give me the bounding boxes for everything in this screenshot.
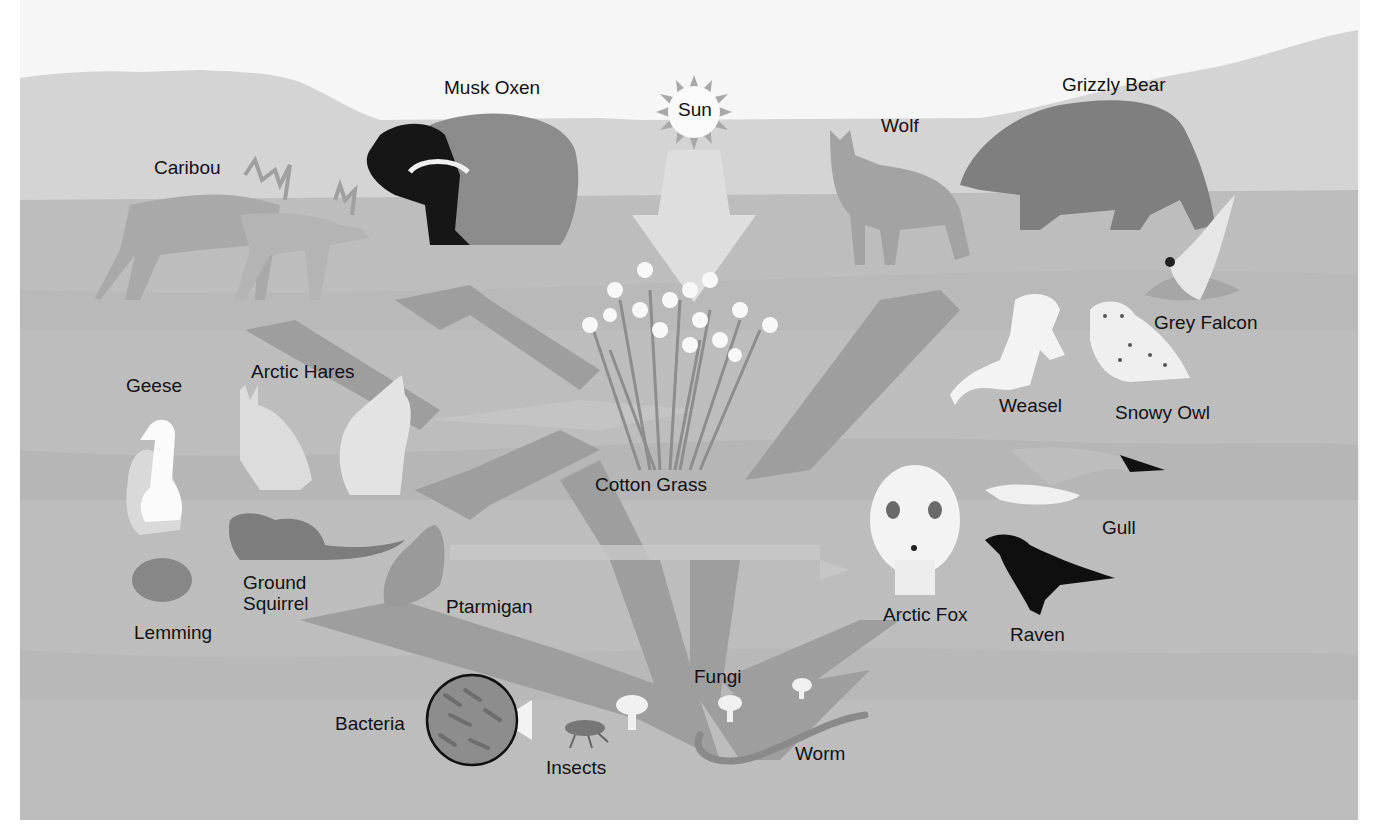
label-gull: Gull	[1102, 518, 1136, 539]
label-snowy-owl: Snowy Owl	[1115, 403, 1210, 424]
label-arctic-fox: Arctic Fox	[883, 605, 967, 626]
label-arctic-hares: Arctic Hares	[251, 362, 354, 383]
label-grey-falcon: Grey Falcon	[1154, 313, 1257, 334]
label-grizzly-bear: Grizzly Bear	[1062, 75, 1165, 96]
label-sun: Sun	[678, 100, 712, 121]
label-geese: Geese	[126, 376, 182, 397]
label-musk-oxen: Musk Oxen	[444, 78, 540, 99]
label-cotton-grass: Cotton Grass	[595, 475, 707, 496]
label-fungi: Fungi	[694, 667, 742, 688]
label-lemming: Lemming	[134, 623, 212, 644]
label-ptarmigan: Ptarmigan	[446, 597, 533, 618]
label-raven: Raven	[1010, 625, 1065, 646]
lemming-icon	[132, 558, 192, 602]
label-caribou: Caribou	[154, 158, 221, 179]
arctic-food-web-diagram: Musk Oxen Sun Grizzly Bear Wolf Caribou …	[0, 0, 1375, 833]
label-worm: Worm	[795, 744, 845, 765]
label-bacteria: Bacteria	[335, 714, 405, 735]
label-weasel: Weasel	[999, 396, 1062, 417]
label-wolf: Wolf	[881, 116, 919, 137]
label-ground-squirrel: Ground Squirrel	[243, 573, 333, 615]
label-insects: Insects	[546, 758, 606, 779]
